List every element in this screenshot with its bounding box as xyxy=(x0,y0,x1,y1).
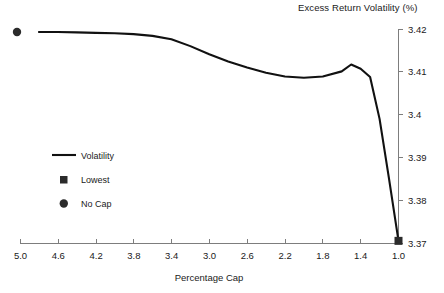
x-tick-label: 4.2 xyxy=(89,250,102,261)
legend-label-volatility: Volatility xyxy=(81,151,115,161)
x-tick-label: 3.8 xyxy=(127,250,140,261)
x-axis-ticks xyxy=(21,239,399,244)
y-tick-label: 3.4 xyxy=(408,109,421,120)
legend-lowest-square-icon xyxy=(60,176,68,184)
y-tick-label: 3.42 xyxy=(408,24,427,35)
y-tick-label: 3.38 xyxy=(408,195,427,206)
y-tick-label: 3.41 xyxy=(408,66,427,77)
chart-plot-area: 3.37 3.38 3.39 3.4 3.41 3.42 5.0 4.6 4.2 xyxy=(0,0,444,293)
x-axis-title: Percentage Cap xyxy=(175,272,244,283)
x-tick-label: 1.4 xyxy=(354,250,367,261)
x-tick-label: 3.0 xyxy=(203,250,216,261)
y-axis-ticks xyxy=(399,30,404,244)
y-axis-tick-labels: 3.37 3.38 3.39 3.4 3.41 3.42 xyxy=(408,24,427,249)
legend-label-lowest: Lowest xyxy=(81,175,110,185)
x-axis-tick-labels: 5.0 4.6 4.2 3.8 3.4 3.0 2.6 2.2 1.8 1.4 … xyxy=(14,250,405,261)
x-tick-label: 4.6 xyxy=(52,250,65,261)
y-tick-label: 3.39 xyxy=(408,152,427,163)
x-tick-label: 1.0 xyxy=(392,250,405,261)
no-cap-marker xyxy=(13,28,21,36)
x-tick-label: 1.8 xyxy=(316,250,329,261)
chart-legend: Volatility Lowest No Cap xyxy=(52,151,115,210)
x-tick-label: 2.6 xyxy=(241,250,254,261)
x-tick-label: 3.4 xyxy=(165,250,178,261)
x-tick-label: 5.0 xyxy=(14,250,27,261)
x-tick-label: 2.2 xyxy=(278,250,291,261)
legend-label-no-cap: No Cap xyxy=(81,199,112,209)
volatility-data-line xyxy=(39,32,399,241)
lowest-marker xyxy=(395,237,403,245)
excess-return-volatility-chart: Excess Return Volatility (%) 3.37 3.38 3… xyxy=(0,0,444,293)
y-tick-label: 3.37 xyxy=(408,238,427,249)
legend-no-cap-circle-icon xyxy=(60,199,68,207)
